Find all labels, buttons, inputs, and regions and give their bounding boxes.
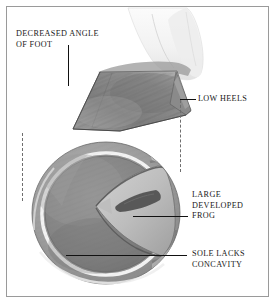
hoof-diagram-figure: DECREASED ANGLE OF FOOT LOW HEELS LARGE … (0, 0, 277, 305)
label-decreased-angle-of-foot: DECREASED ANGLE OF FOOT (16, 29, 99, 50)
alignment-guide-left (22, 133, 23, 201)
label-low-heels: LOW HEELS (198, 94, 247, 105)
alignment-guide-right (180, 100, 181, 172)
leader-large-developed-frog (133, 216, 188, 217)
label-sole-lacks-concavity: SOLE LACKS CONCAVITY (192, 249, 245, 270)
label-large-developed-frog: LARGE DEVELOPED FROG (192, 190, 243, 222)
solar-hoof-view (30, 140, 190, 290)
leader-sole-lacks-concavity (66, 255, 187, 256)
leader-decreased-angle (68, 45, 69, 86)
leader-low-heels (180, 99, 196, 100)
